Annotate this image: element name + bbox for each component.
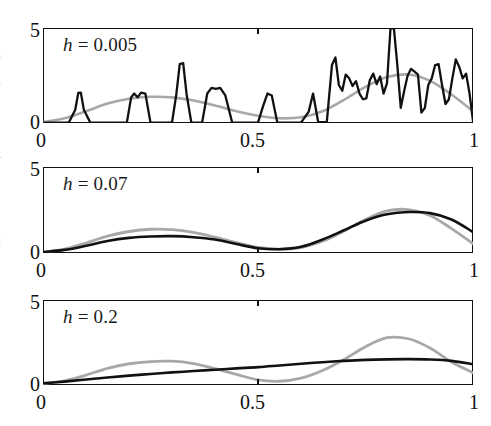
panel-label-2: h = 0.07 [63,173,128,195]
panel-label-value: 0.2 [94,306,118,327]
x-tick-label-1-panel-2: 1 [469,260,479,280]
panel-label-variable: h [63,306,73,327]
margin-fragment: n [0,225,1,251]
x-tick-label-05-panel-1: 0.5 [240,130,265,150]
x-tick-label-05-panel-3: 0.5 [240,392,265,412]
true-density-curve [43,74,473,122]
margin-fragment: y [0,146,1,172]
plot-panel-h-02: h = 0.2 [43,300,473,385]
x-tick-mid-bottom [257,379,259,385]
true-density-curve [43,209,473,252]
x-tick-mid-top [257,167,259,173]
panel-label-variable: h [63,34,73,55]
y-tick-label-5-panel-2: 5 [14,159,40,179]
panel-label-3: h = 0.2 [63,306,118,328]
margin-fragment: d [0,40,1,66]
x-tick-label-1-panel-3: 1 [469,392,479,412]
y-tick-label-5-panel-1: 5 [14,20,40,40]
x-tick-mid-top [257,28,259,34]
plot-panel-h-0005: h = 0.005 [43,28,473,123]
panel-label-1: h = 0.005 [63,34,137,56]
margin-fragment: n [0,67,1,93]
panel-label-value: 0.005 [94,34,138,55]
x-tick-label-0-panel-1: 0 [36,130,46,150]
plot-panel-h-007: h = 0.07 [43,167,473,253]
panel-label-value: 0.07 [94,173,128,194]
x-tick-label-0-panel-2: 0 [36,260,46,280]
panel-label-variable: h [63,173,73,194]
x-tick-label-0-panel-3: 0 [36,392,46,412]
x-tick-mid-top [257,300,259,306]
panel-label-equals: = [78,306,89,327]
x-tick-label-05-panel-2: 0.5 [240,260,265,280]
y-tick-label-5-panel-3: 5 [14,292,40,312]
x-tick-label-1-panel-1: 1 [469,130,479,150]
panel-label-equals: = [78,173,89,194]
panel-label-equals: = [78,34,89,55]
x-tick-mid-bottom [257,247,259,253]
margin-cutoff-text: l d n a t y t l n e - - [0,14,14,331]
